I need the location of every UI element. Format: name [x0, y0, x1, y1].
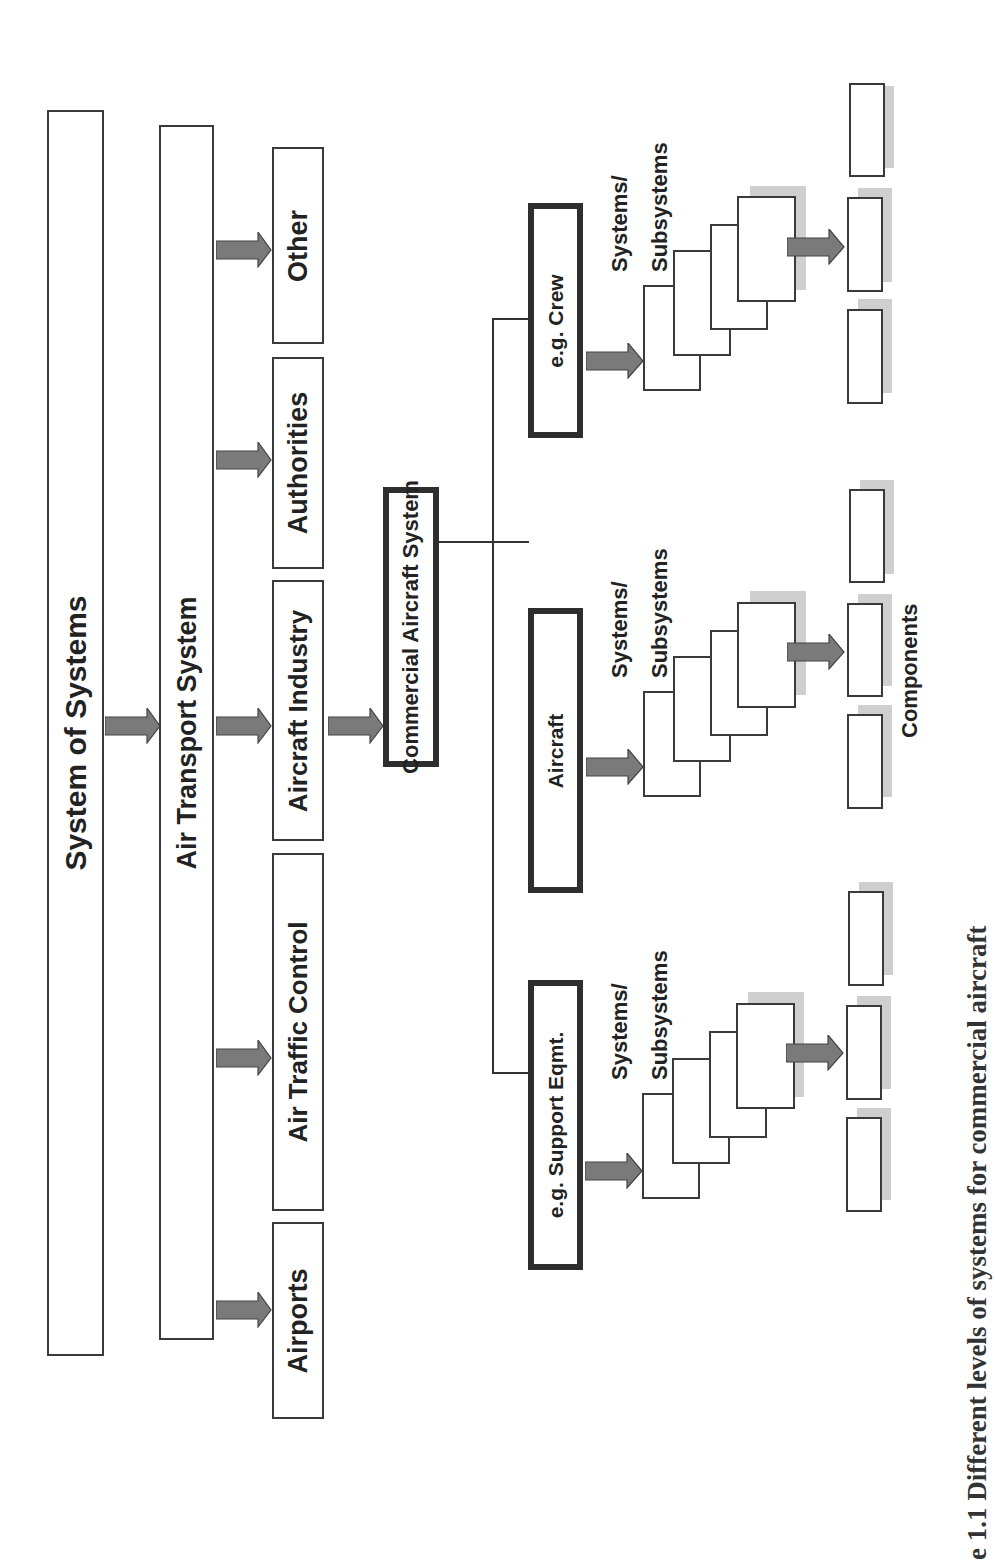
system-of-systems-box: System of Systems — [47, 110, 104, 1356]
support-eqmt-box: e.g. Support Eqmt. — [528, 980, 583, 1270]
air-transport-system-label: Air Transport System — [171, 596, 202, 869]
systems-text: Systems/ — [600, 142, 640, 272]
air-traffic-control-label: Air Traffic Control — [283, 921, 314, 1142]
systems-text: Systems/ — [600, 548, 640, 678]
arrow-icon — [216, 442, 272, 478]
component-box — [847, 603, 883, 697]
other-box: Other — [272, 147, 324, 344]
arrow-icon — [787, 229, 845, 265]
support-systems-label: Systems/ Subsystems — [600, 950, 680, 1080]
air-transport-system-box: Air Transport System — [159, 125, 214, 1340]
arrow-icon — [105, 708, 161, 744]
component-box — [848, 891, 884, 986]
support-eqmt-label: e.g. Support Eqmt. — [544, 1032, 568, 1219]
airports-box: Airports — [272, 1222, 324, 1419]
authorities-label: Authorities — [283, 392, 314, 535]
commercial-aircraft-system-box: Commercial Aircraft System — [383, 487, 439, 767]
air-traffic-control-box: Air Traffic Control — [272, 853, 324, 1211]
crew-label: e.g. Crew — [544, 274, 568, 367]
connector-line — [492, 318, 494, 1074]
component-box — [849, 489, 885, 583]
arrow-icon — [216, 708, 272, 744]
arrow-icon — [787, 634, 845, 670]
arrow-icon — [216, 1292, 272, 1328]
component-box — [847, 714, 883, 809]
component-box — [847, 309, 883, 404]
component-box — [849, 83, 885, 177]
airports-label: Airports — [283, 1268, 314, 1373]
arrow-icon — [216, 232, 272, 268]
component-box — [846, 1005, 882, 1100]
system-of-systems-label: System of Systems — [59, 595, 93, 870]
commercial-aircraft-system-label: Commercial Aircraft System — [398, 480, 424, 774]
aircraft-systems-label: Systems/ Subsystems — [600, 548, 680, 678]
systems-text: Systems/ — [600, 950, 640, 1080]
arrow-icon — [216, 1040, 272, 1076]
connector-line — [492, 318, 529, 320]
component-box — [846, 1117, 882, 1212]
aircraft-industry-box: Aircraft Industry — [272, 580, 324, 841]
components-label: Components — [897, 604, 923, 738]
aircraft-box: Aircraft — [528, 608, 583, 893]
component-box — [847, 197, 883, 292]
other-label: Other — [283, 209, 314, 281]
arrow-icon — [786, 1035, 844, 1071]
arrow-icon — [586, 749, 644, 785]
connector-line — [439, 541, 529, 543]
aircraft-label: Aircraft — [544, 713, 568, 788]
connector-line — [492, 1072, 529, 1074]
authorities-box: Authorities — [272, 357, 324, 569]
arrow-icon — [585, 1153, 643, 1189]
crew-systems-label: Systems/ Subsystems — [600, 142, 680, 272]
aircraft-industry-label: Aircraft Industry — [283, 609, 314, 811]
figure-caption: e 1.1 Different levels of systems for co… — [962, 925, 993, 1560]
arrow-icon — [586, 343, 644, 379]
arrow-icon — [328, 708, 384, 744]
crew-box: e.g. Crew — [528, 203, 583, 438]
